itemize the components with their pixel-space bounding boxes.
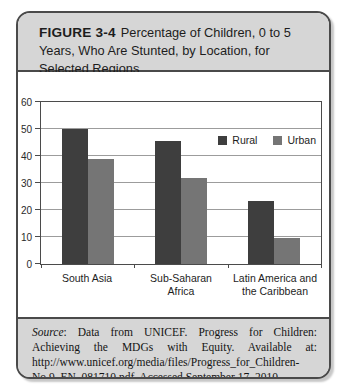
source-prefix: Source <box>32 326 64 338</box>
x-tick-2 <box>228 264 229 268</box>
bar-rural-0 <box>62 129 88 264</box>
rural-swatch-icon <box>218 136 227 145</box>
legend-label-urban: Urban <box>287 134 316 146</box>
chart-legend: Rural Urban <box>218 134 316 146</box>
figure-header: FIGURE 3-4Percentage of Children, 0 to 5… <box>18 13 329 72</box>
x-tick-0 <box>41 264 42 268</box>
bar-groups <box>41 102 321 264</box>
bar-rural-1 <box>155 141 181 264</box>
y-tick-label-60: 60 <box>21 97 32 108</box>
x-tick-1 <box>134 264 135 268</box>
bar-group-0 <box>41 102 134 264</box>
y-tick-label-30: 30 <box>21 178 32 189</box>
figure-label: FIGURE 3-4 <box>39 25 116 40</box>
x-axis-labels: South AsiaSub-Saharan AfricaLatin Americ… <box>40 272 322 298</box>
y-tick-label-10: 10 <box>21 232 32 243</box>
urban-swatch-icon <box>273 136 282 145</box>
bar-urban-0 <box>88 159 114 264</box>
y-tick-label-0: 0 <box>26 259 32 270</box>
x-category-label-2: Latin America and the Caribbean <box>228 272 322 298</box>
figure-card: FIGURE 3-4Percentage of Children, 0 to 5… <box>16 11 331 379</box>
plot-area: Rural Urban 0102030405060 <box>40 101 322 265</box>
y-tick-label-20: 20 <box>21 205 32 216</box>
y-tick-label-40: 40 <box>21 151 32 162</box>
bar-rural-2 <box>248 201 274 264</box>
legend-label-rural: Rural <box>232 134 257 146</box>
figure-footer: Source: Data from UNICEF. Progress for C… <box>18 317 329 379</box>
source-body: : Data from UNICEF. Progress for Childre… <box>32 326 317 379</box>
bar-group-1 <box>134 102 227 264</box>
x-category-label-1: Sub-Saharan Africa <box>134 272 228 298</box>
bar-urban-2 <box>274 238 300 264</box>
source-citation: Source: Data from UNICEF. Progress for C… <box>32 325 317 379</box>
x-tick-3 <box>321 264 322 268</box>
y-tick-label-50: 50 <box>21 124 32 135</box>
legend-item-rural: Rural <box>218 134 257 146</box>
x-category-label-0: South Asia <box>40 272 134 298</box>
chart-panel: Rural Urban 0102030405060 South AsiaSub-… <box>18 72 329 317</box>
bar-urban-1 <box>181 178 207 264</box>
bar-group-2 <box>228 102 321 264</box>
legend-item-urban: Urban <box>273 134 316 146</box>
